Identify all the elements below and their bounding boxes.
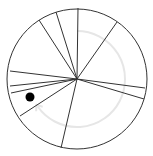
spoke-line (77, 79, 145, 88)
ball[interactable] (26, 93, 35, 102)
spoke-line (56, 12, 77, 79)
spoke-line (10, 71, 77, 79)
direction-path-arc (38, 31, 125, 127)
game-board[interactable] (0, 0, 153, 156)
spoke-line (39, 20, 77, 79)
spoke-line (61, 79, 77, 148)
spoke-line (77, 79, 144, 99)
spoke-line (77, 8, 78, 79)
